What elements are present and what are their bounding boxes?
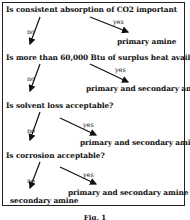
question-2: Is more than 60,000 Btu of surplus heat … xyxy=(6,53,190,62)
figure-caption: Fig. 1 xyxy=(0,213,190,220)
no-label-2: no xyxy=(27,75,35,83)
question-1: Is consistent absorption of CO2 importan… xyxy=(6,5,177,14)
yes-label-1: yes xyxy=(113,18,124,26)
yes-label-3: yes xyxy=(83,121,94,129)
result-4: primary and secondary amine xyxy=(68,188,188,197)
result-3: primary and secondary amine xyxy=(80,138,190,147)
question-3: Is solvent loss acceptable? xyxy=(6,101,113,110)
question-4: Is corrosion acceptable? xyxy=(6,151,105,160)
no-arrow-3 xyxy=(30,112,40,140)
no-label-1: no xyxy=(27,28,35,36)
result-1: primary amine xyxy=(117,37,176,46)
result-2: primary and secondary amine xyxy=(86,84,190,93)
yes-label-2: yes xyxy=(115,66,126,74)
no-label-4: no xyxy=(27,177,35,185)
yes-label-4: yes xyxy=(83,171,94,179)
no-label-3: no xyxy=(27,127,35,135)
final-no-result: secondary amine xyxy=(10,196,78,205)
